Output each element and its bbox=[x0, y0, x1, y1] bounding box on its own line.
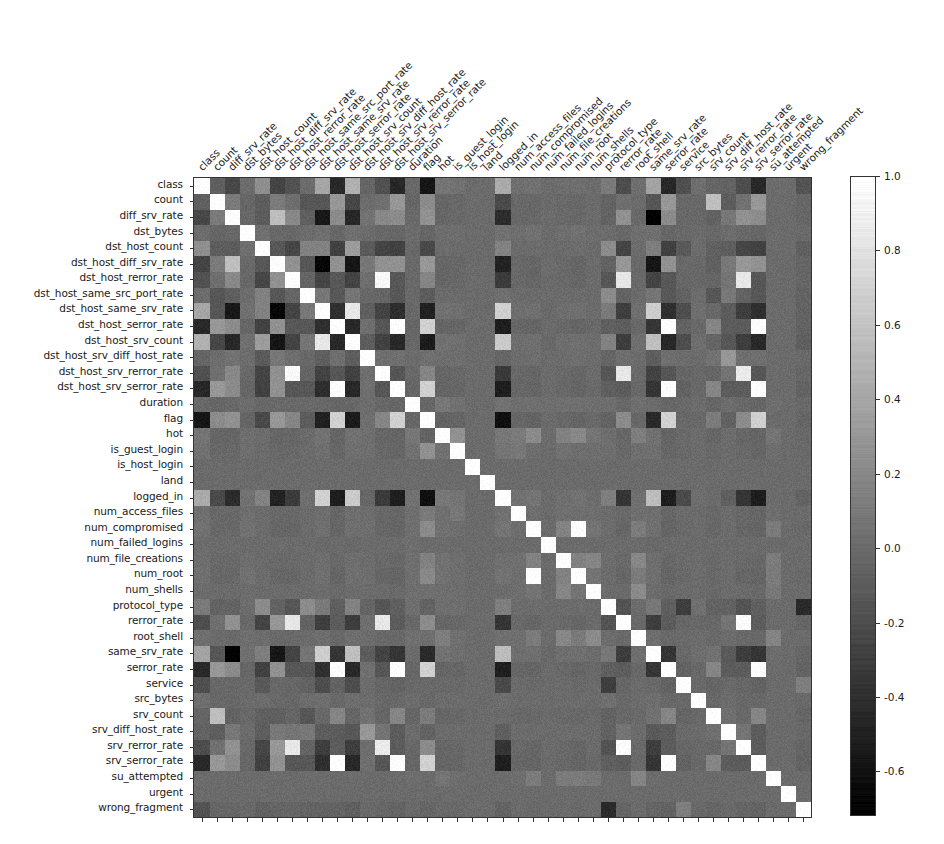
x-axis-tick bbox=[232, 818, 233, 822]
row-label: hot bbox=[166, 427, 183, 439]
colorbar-tick bbox=[876, 399, 880, 400]
colorbar-tick-label: 0.6 bbox=[884, 319, 901, 331]
colorbar-tick bbox=[876, 325, 880, 326]
y-axis-tick bbox=[190, 544, 194, 545]
row-label: serror_rate bbox=[127, 661, 183, 673]
row-label: is_guest_login bbox=[111, 443, 183, 455]
x-axis-tick bbox=[788, 818, 789, 822]
colorbar-tick-label: -0.6 bbox=[884, 765, 905, 777]
row-label: srv_count bbox=[133, 708, 183, 720]
x-axis-tick bbox=[548, 818, 549, 822]
row-label: srv_serror_rate bbox=[106, 754, 183, 766]
row-label: num_compromised bbox=[84, 521, 183, 533]
row-label: dst_host_srv_rerror_rate bbox=[59, 365, 183, 377]
x-axis-tick bbox=[518, 818, 519, 822]
x-axis-tick bbox=[653, 818, 654, 822]
y-axis-tick bbox=[190, 529, 194, 530]
y-axis-tick bbox=[190, 248, 194, 249]
y-axis-tick bbox=[190, 264, 194, 265]
colorbar-gradient bbox=[850, 176, 876, 816]
x-axis-tick bbox=[623, 818, 624, 822]
row-label: num_root bbox=[134, 567, 183, 579]
row-label: dst_host_serror_rate bbox=[78, 318, 183, 330]
x-axis-tick bbox=[307, 818, 308, 822]
row-label: land bbox=[161, 474, 183, 486]
row-label: su_attempted bbox=[112, 770, 183, 782]
colorbar-tick-label: 0.4 bbox=[884, 393, 901, 405]
x-axis-tick bbox=[608, 818, 609, 822]
row-label: diff_srv_rate bbox=[119, 209, 183, 221]
y-axis-tick bbox=[190, 498, 194, 499]
y-axis-tick bbox=[190, 778, 194, 779]
x-axis-tick bbox=[202, 818, 203, 822]
x-axis-tick bbox=[773, 818, 774, 822]
y-axis-tick bbox=[190, 295, 194, 296]
y-axis-tick bbox=[190, 575, 194, 576]
x-axis-tick bbox=[758, 818, 759, 822]
x-axis-tick bbox=[427, 818, 428, 822]
y-axis-tick bbox=[190, 685, 194, 686]
y-axis-tick bbox=[190, 716, 194, 717]
y-axis-tick bbox=[190, 310, 194, 311]
row-label: dst_bytes bbox=[133, 225, 183, 237]
y-axis-tick bbox=[190, 638, 194, 639]
x-axis-tick bbox=[728, 818, 729, 822]
x-axis-tick bbox=[247, 818, 248, 822]
y-axis-tick bbox=[190, 591, 194, 592]
colorbar-tick bbox=[876, 697, 880, 698]
colorbar-tick bbox=[876, 474, 880, 475]
y-axis-tick bbox=[190, 435, 194, 436]
row-label: dst_host_rerror_rate bbox=[79, 271, 183, 283]
y-axis-tick bbox=[190, 513, 194, 514]
y-axis-tick bbox=[190, 404, 194, 405]
x-axis-tick bbox=[578, 818, 579, 822]
y-axis-tick bbox=[190, 466, 194, 467]
colorbar-tick-label: -0.2 bbox=[884, 617, 905, 629]
y-axis-tick bbox=[190, 669, 194, 670]
x-axis-tick bbox=[262, 818, 263, 822]
colorbar-tick-label: 0.0 bbox=[884, 542, 901, 554]
colorbar-tick-label: -0.4 bbox=[884, 691, 905, 703]
row-label: srv_rerror_rate bbox=[107, 739, 183, 751]
y-axis-tick bbox=[190, 326, 194, 327]
x-axis-tick bbox=[367, 818, 368, 822]
x-axis-tick bbox=[442, 818, 443, 822]
x-axis-tick bbox=[337, 818, 338, 822]
x-axis-tick bbox=[352, 818, 353, 822]
y-axis-tick bbox=[190, 279, 194, 280]
row-label: num_file_creations bbox=[86, 552, 183, 564]
x-axis-tick bbox=[638, 818, 639, 822]
colorbar-tick bbox=[876, 250, 880, 251]
y-axis-tick bbox=[190, 809, 194, 810]
x-axis-tick bbox=[277, 818, 278, 822]
row-label: same_srv_rate bbox=[108, 645, 183, 657]
row-label: num_shells bbox=[125, 583, 183, 595]
colorbar-tick-label: 0.2 bbox=[884, 468, 901, 480]
row-label: protocol_type bbox=[113, 599, 183, 611]
row-label: dst_host_srv_diff_host_rate bbox=[44, 349, 183, 361]
y-axis-tick bbox=[190, 217, 194, 218]
row-label: flag bbox=[164, 412, 183, 424]
row-label: dst_host_diff_srv_rate bbox=[71, 256, 183, 268]
row-label: count bbox=[154, 193, 183, 205]
row-label: dst_host_same_src_port_rate bbox=[34, 287, 183, 299]
heatmap-cells-canvas bbox=[194, 178, 811, 817]
x-axis-tick bbox=[503, 818, 504, 822]
x-axis-tick bbox=[412, 818, 413, 822]
y-axis-tick bbox=[190, 388, 194, 389]
x-axis-tick bbox=[292, 818, 293, 822]
colorbar-tick bbox=[876, 548, 880, 549]
y-axis-tick bbox=[190, 653, 194, 654]
x-axis-tick bbox=[322, 818, 323, 822]
row-label: is_host_login bbox=[117, 458, 183, 470]
row-label: urgent bbox=[149, 786, 183, 798]
heatmap-plot-area bbox=[193, 177, 812, 818]
x-axis-tick bbox=[563, 818, 564, 822]
x-axis-tick bbox=[487, 818, 488, 822]
x-axis-tick bbox=[457, 818, 458, 822]
y-axis-tick bbox=[190, 201, 194, 202]
colorbar-tick bbox=[876, 623, 880, 624]
row-label: rerror_rate bbox=[128, 614, 183, 626]
colorbar-tick bbox=[876, 176, 880, 177]
row-label: dst_host_srv_serror_rate bbox=[57, 380, 183, 392]
